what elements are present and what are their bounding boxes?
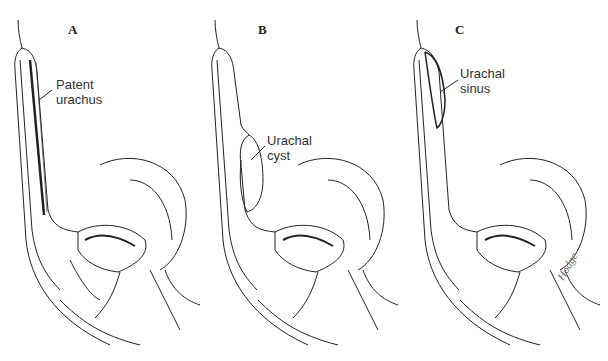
panel-b: B Urachal cyst <box>203 0 406 361</box>
leader-line-b <box>203 0 406 361</box>
panel-c: C Urachal sinus Hodge <box>405 0 608 361</box>
leader-line-a <box>0 0 203 361</box>
leader-line-c <box>405 0 608 361</box>
panel-a: A Patent urachus <box>0 0 203 361</box>
